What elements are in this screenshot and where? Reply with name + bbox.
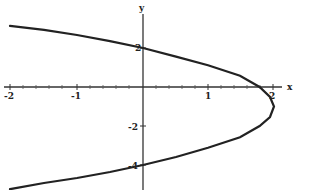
chart-canvas: -2 -1 1 2 2 -2 -4 x y <box>0 0 312 190</box>
y-tick-label: 2 <box>135 43 141 53</box>
x-tick-label: 1 <box>205 91 211 101</box>
y-tick-label: -2 <box>128 122 138 132</box>
x-tick-label: -2 <box>4 91 14 101</box>
y-tick-label: -4 <box>128 161 138 171</box>
parabola-curve <box>10 26 274 189</box>
y-axis-label: y <box>138 3 145 13</box>
x-axis-label: x <box>287 82 293 92</box>
x-tick-label: -1 <box>71 91 81 101</box>
x-tick-label: 2 <box>269 91 275 101</box>
